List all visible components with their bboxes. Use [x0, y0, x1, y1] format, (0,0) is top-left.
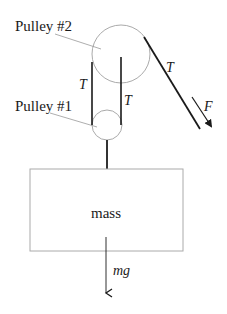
mass-label: mass: [91, 205, 121, 221]
pulley-2-label: Pulley #2: [15, 18, 72, 34]
weight-label: mg: [113, 263, 130, 278]
pulley-2-leader-line: [55, 34, 101, 49]
pulley-1-label: Pulley #1: [15, 98, 72, 114]
tension-diagonal-label: T: [166, 60, 175, 75]
rope-diagonal: [144, 37, 200, 129]
pulley-system-diagram: Pulley #2 Pulley #1 T T T F mass mg: [0, 0, 227, 314]
force-label: F: [203, 99, 213, 114]
pulley-1: [92, 110, 122, 140]
tension-left-label: T: [79, 77, 88, 92]
tension-right-label: T: [124, 93, 133, 108]
pulley-1-leader-line: [50, 113, 97, 127]
